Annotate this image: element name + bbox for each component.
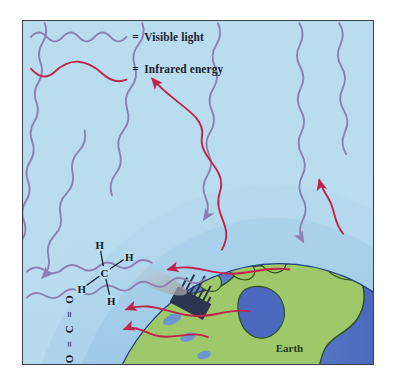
legend-label-visible: Visible light (144, 31, 204, 44)
co2-bond-left: = (63, 341, 75, 347)
methane-hydrogen-3: H (107, 295, 116, 307)
methane-carbon-label: C (101, 267, 109, 279)
legend-label-infrared: Infrared energy (144, 63, 223, 76)
co2-oxygen-left: O (63, 355, 75, 363)
co2-carbon: C (63, 325, 75, 333)
hudson-bay (238, 286, 285, 338)
co2-oxygen-right: O (63, 295, 75, 303)
legend-equals-visible: = (132, 31, 139, 43)
methane-hydrogen-4: H (125, 251, 134, 263)
earth-label: Earth (276, 342, 303, 354)
figure-frame: Earth (22, 20, 374, 365)
co2-bond-right: = (63, 311, 75, 317)
methane-hydrogen-1: H (78, 283, 87, 295)
legend-equals-infrared: = (132, 63, 139, 75)
methane-hydrogen-2: H (95, 239, 104, 251)
greenhouse-effect-scene: Earth (23, 21, 373, 364)
